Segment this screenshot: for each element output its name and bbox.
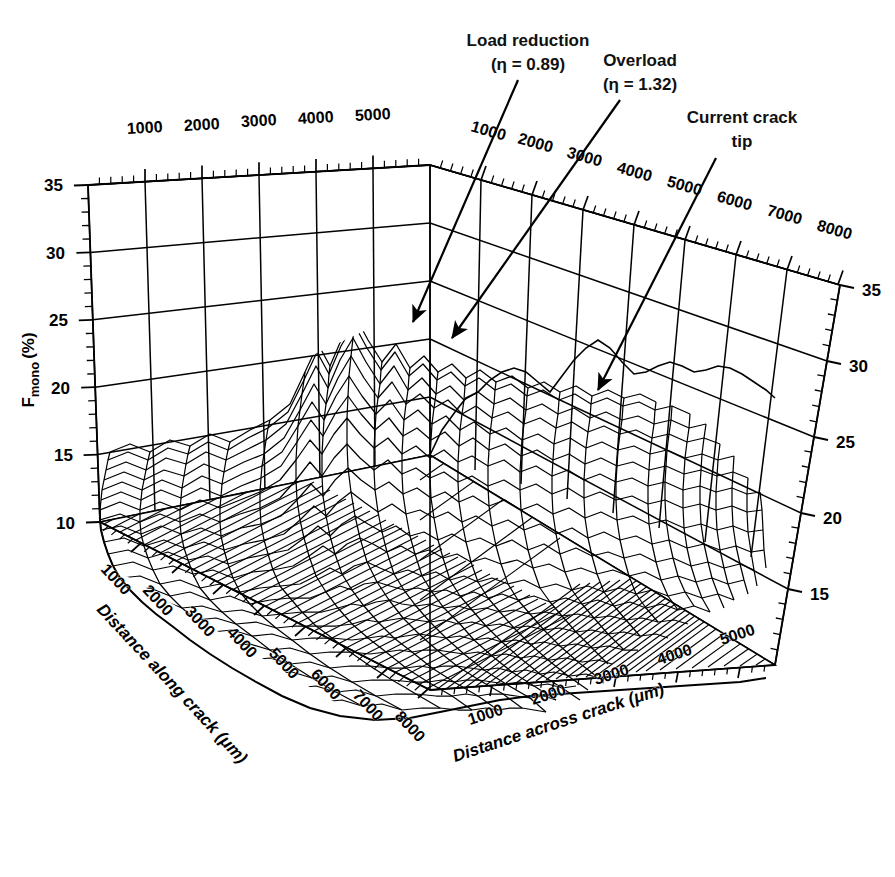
z-tick-left-30: 30 <box>46 244 65 263</box>
y-near-tick-8000: 8000 <box>392 707 429 745</box>
y-far-tick-3000: 3000 <box>565 144 604 170</box>
annotation-overload-line2: (η = 1.32) <box>603 75 677 94</box>
z-axis-left <box>74 185 100 523</box>
figure-canvas: 35 30 25 20 15 10 Fmono(%) 3 <box>0 0 895 877</box>
z-tick-left-25: 25 <box>49 311 68 330</box>
back-profile-trace <box>430 340 775 455</box>
annotation-load-reduction-line1: Load reduction <box>467 31 590 50</box>
y-far-tick-1000: 1000 <box>469 118 508 144</box>
z-tick-right-35: 35 <box>862 281 881 300</box>
annotation-overload-line1: Overload <box>603 51 677 70</box>
annotation-crack-tip-line2: tip <box>732 132 753 151</box>
z-axis-right-ticklabels: 35 30 25 20 15 <box>810 281 881 604</box>
annotation-load-reduction: Load reduction (η = 0.89) <box>413 31 589 322</box>
x-far-tick-4000: 4000 <box>297 108 334 127</box>
y-far-tick-8000: 8000 <box>815 217 854 243</box>
annotation-crack-tip-line1: Current crack <box>687 108 798 127</box>
x-far-tick-2000: 2000 <box>183 115 220 134</box>
y-near-tick-4000: 4000 <box>224 623 261 661</box>
z-tick-right-25: 25 <box>836 433 855 452</box>
y-far-tick-7000: 7000 <box>765 202 804 228</box>
annotation-crack-tip-leader <box>598 158 716 390</box>
annotation-load-reduction-leader <box>413 80 518 322</box>
x-far-tick-3000: 3000 <box>240 111 277 130</box>
z-tick-right-30: 30 <box>849 357 868 376</box>
z-axis-label: Fmono(%) <box>19 332 42 407</box>
y-near-tick-3000: 3000 <box>182 602 219 640</box>
z-tick-left-15: 15 <box>54 446 73 465</box>
z-axis-left-ticklabels: 35 30 25 20 15 10 <box>44 176 75 533</box>
z-tick-left-10: 10 <box>56 514 75 533</box>
z-axis-label-sub: mono <box>27 362 42 397</box>
z-tick-left-35: 35 <box>44 176 63 195</box>
x-near-tick-2000: 2000 <box>529 681 568 708</box>
z-tick-left-20: 20 <box>51 379 70 398</box>
annotation-load-reduction-line2: (η = 0.89) <box>491 55 565 74</box>
y-near-tick-2000: 2000 <box>140 581 177 619</box>
x-far-tick-5000: 5000 <box>354 105 391 124</box>
z-axis-label-main: F <box>19 397 38 407</box>
z-axis-label-unit: (%) <box>19 332 38 358</box>
y-far-tick-6000: 6000 <box>715 188 754 214</box>
svg-text:Fmono(%): Fmono(%) <box>19 332 42 407</box>
annotation-overload: Overload (η = 1.32) <box>452 51 677 338</box>
z-tick-right-15: 15 <box>810 585 829 604</box>
z-tick-right-20: 20 <box>823 509 842 528</box>
y-far-tick-2000: 2000 <box>516 130 555 156</box>
x-far-tick-1000: 1000 <box>126 118 163 137</box>
y-axis-far-ticklabels: 1000 2000 3000 4000 5000 6000 7000 8000 <box>469 118 854 243</box>
y-far-tick-4000: 4000 <box>615 159 654 185</box>
annotation-crack-tip: Current crack tip <box>598 108 798 390</box>
surface-plot-svg: 35 30 25 20 15 10 Fmono(%) 3 <box>0 0 895 877</box>
y-near-tick-6000: 6000 <box>308 665 345 703</box>
x-axis-far-ticklabels: 1000 2000 3000 4000 5000 <box>126 105 391 137</box>
y-near-tick-1000: 1000 <box>98 560 135 598</box>
z-axis-right <box>771 285 854 665</box>
